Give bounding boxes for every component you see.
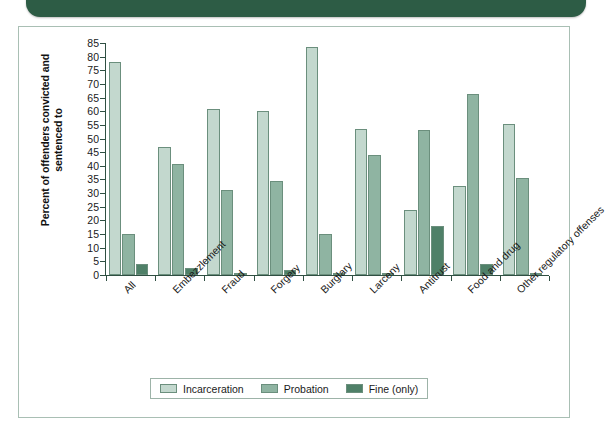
legend-swatch (261, 384, 278, 393)
y-axis-tick-label: 35 (73, 174, 99, 184)
y-axis-tick-mark (100, 234, 105, 235)
chart-figure: Percent of offenders convicted and sente… (18, 26, 570, 418)
plot-area: Percent of offenders convicted and sente… (19, 27, 571, 419)
y-axis-tick-mark (100, 43, 105, 44)
bar-group (404, 43, 444, 275)
bar (306, 47, 319, 275)
y-axis-tick-mark (100, 139, 105, 140)
legend-label: Probation (284, 383, 329, 395)
y-axis-tick-label: 50 (73, 134, 99, 144)
y-axis-tick-label: 60 (73, 106, 99, 116)
x-axis-category-labels: AllEmbezzlementFraudForgeryBurglaryLarce… (106, 281, 566, 391)
y-axis-tick-label: 80 (73, 52, 99, 62)
legend-label: Incarceration (183, 383, 244, 395)
legend-label: Fine (only) (369, 383, 419, 395)
legend-swatch (160, 384, 177, 393)
bar (172, 164, 185, 275)
bar (355, 129, 368, 275)
legend-item: Probation (261, 383, 329, 395)
y-axis-tick-label: 65 (73, 93, 99, 103)
y-axis-tick-label: 0 (73, 270, 99, 280)
bar-group (158, 43, 198, 275)
y-axis-tick-label: 40 (73, 161, 99, 171)
bar (270, 181, 283, 275)
y-axis-tick-mark (100, 275, 105, 276)
y-axis-tick-label: 45 (73, 147, 99, 157)
y-axis-tick-mark (100, 125, 105, 126)
bar-group (257, 43, 297, 275)
page-banner (26, 0, 586, 17)
y-axis-tick-mark (100, 70, 105, 71)
bar (516, 178, 529, 275)
bar-group (355, 43, 395, 275)
bar (136, 264, 149, 275)
chart-legend: IncarcerationProbationFine (only) (150, 378, 428, 399)
y-axis-tick-label: 25 (73, 202, 99, 212)
bar (122, 234, 135, 275)
y-axis-tick-mark (100, 111, 105, 112)
bar (319, 234, 332, 275)
bar (418, 130, 431, 275)
bar (467, 94, 480, 276)
legend-swatch (346, 384, 363, 393)
bar (453, 186, 466, 275)
y-axis-tick-label: 70 (73, 79, 99, 89)
y-axis-tick-label: 85 (73, 38, 99, 48)
y-axis-tick-mark (100, 166, 105, 167)
y-axis-tick-label: 30 (73, 188, 99, 198)
y-axis-tick-mark (100, 98, 105, 99)
y-axis-tick-mark (100, 179, 105, 180)
y-axis-tick-mark (100, 152, 105, 153)
y-axis-tick-mark (100, 261, 105, 262)
y-axis-tick-mark (100, 193, 105, 194)
y-axis-tick-mark (100, 207, 105, 208)
y-axis-tick-label: 55 (73, 120, 99, 130)
y-axis-tick-label: 75 (73, 65, 99, 75)
bar-group (207, 43, 247, 275)
y-axis-tick-label: 10 (73, 243, 99, 253)
bar-groups (106, 43, 549, 275)
bar (221, 190, 234, 275)
bar (404, 210, 417, 276)
y-axis-tick-label: 5 (73, 256, 99, 266)
bar-group (503, 43, 543, 275)
bar (109, 62, 122, 275)
bar (368, 155, 381, 275)
y-axis-tick-label: 15 (73, 229, 99, 239)
y-axis-tick-mark (100, 220, 105, 221)
y-axis-tick-labels: 0510152025303540455055606570758085 (73, 43, 99, 275)
bar (158, 147, 171, 275)
y-axis-tick-mark (100, 248, 105, 249)
legend-item: Incarceration (160, 383, 244, 395)
bar-group (109, 43, 149, 275)
y-axis-title: Percent of offenders convicted and sente… (39, 50, 65, 230)
x-axis-category-label: All (121, 279, 138, 296)
bar-group (306, 43, 346, 275)
bar (257, 111, 270, 275)
y-axis-tick-mark (100, 84, 105, 85)
y-axis-tick-label: 20 (73, 215, 99, 225)
y-axis-tick-mark (100, 57, 105, 58)
legend-item: Fine (only) (346, 383, 419, 395)
bar-group (453, 43, 493, 275)
